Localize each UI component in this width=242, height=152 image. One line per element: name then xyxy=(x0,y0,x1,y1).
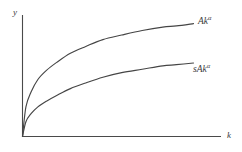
curve-label-lower-exponent: α xyxy=(207,62,210,69)
curve-label-upper: Akα xyxy=(198,17,211,27)
curve-label-upper-exponent: α xyxy=(208,14,211,21)
curve-lower-saving xyxy=(23,63,194,137)
curve-upper-production xyxy=(23,24,194,137)
production-function-chart: y k Akα sAkα xyxy=(0,0,242,152)
x-axis-label: k xyxy=(227,131,231,140)
curve-label-upper-base: Ak xyxy=(198,16,208,26)
curve-label-lower-base: sAk xyxy=(193,64,207,74)
curve-label-lower: sAkα xyxy=(193,65,210,75)
y-axis-label: y xyxy=(13,8,17,17)
